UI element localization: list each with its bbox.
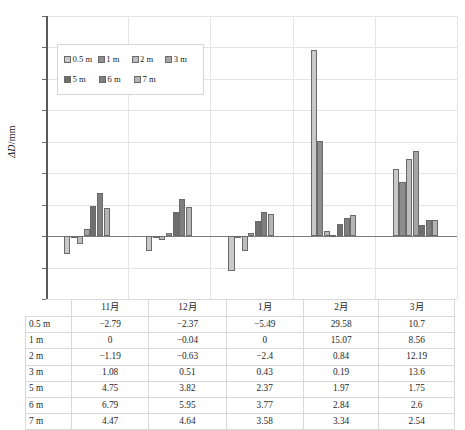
table-cell: 2.6 — [379, 397, 455, 413]
table-cell: 12.19 — [379, 349, 455, 365]
bar — [268, 214, 274, 237]
table-row: 5 m4.753.822.371.971.75 — [26, 381, 455, 397]
y-gridline — [46, 142, 457, 143]
legend-swatch-icon — [165, 56, 172, 63]
bar — [104, 208, 110, 236]
table-row: 3 m1.080.510.430.1913.6 — [26, 365, 455, 381]
bar — [413, 151, 419, 237]
table-cell: 1.08 — [72, 365, 149, 381]
y-gridline — [46, 110, 457, 111]
bar — [64, 236, 70, 254]
legend-label: 2 m — [140, 54, 153, 64]
table-row: 2 m−1.19−0.63−2.40.8412.19 — [26, 349, 455, 365]
bar — [84, 229, 90, 236]
y-gridline — [46, 16, 457, 17]
bar — [248, 233, 254, 236]
table-cell: 0 — [226, 333, 303, 349]
table-cell: 6.79 — [72, 397, 149, 413]
bar — [432, 220, 438, 236]
data-table: 11月12月1月2月3月 0.5 m−2.79−2.37−5.4929.5810… — [25, 299, 455, 430]
bar — [90, 206, 96, 236]
bar — [228, 236, 234, 271]
table-cell: 3.34 — [303, 414, 379, 430]
table-cell: 4.64 — [149, 414, 226, 430]
legend-item-0-5-m[interactable]: 0.5 m — [64, 54, 98, 64]
x-gridline — [375, 16, 376, 299]
table-cell: −2.4 — [226, 349, 303, 365]
bar — [419, 225, 425, 236]
table-cell: 0.51 — [149, 365, 226, 381]
table-cell: 3.77 — [226, 397, 303, 413]
table-row-header: 5 m — [26, 381, 72, 397]
table-row-header: 3 m — [26, 365, 72, 381]
legend-swatch-icon — [132, 56, 139, 63]
table-cell: −5.49 — [226, 317, 303, 333]
bar — [393, 169, 399, 236]
bar — [261, 212, 267, 236]
bar — [317, 141, 323, 236]
table-row-header: 1 m — [26, 333, 72, 349]
table-body: 0.5 m−2.79−2.37−5.4929.5810.71 m0−0.0401… — [26, 317, 455, 430]
bar — [311, 50, 317, 236]
legend-label: 7 m — [143, 74, 156, 84]
table-row-header: 6 m — [26, 397, 72, 413]
table-cell: 4.47 — [72, 414, 149, 430]
legend-label: 5 m — [73, 74, 86, 84]
table-cell: 1.97 — [303, 381, 379, 397]
table-cell: 29.58 — [303, 317, 379, 333]
legend-item-6-m[interactable]: 6 m — [99, 74, 134, 84]
table-cell: 8.56 — [379, 333, 455, 349]
bar — [186, 207, 192, 236]
table-column-header: 1月 — [226, 300, 303, 317]
legend-swatch-icon — [98, 56, 105, 63]
bar — [173, 212, 179, 236]
bar — [344, 218, 350, 236]
table-cell: 13.6 — [379, 365, 455, 381]
bar — [77, 236, 83, 243]
x-gridline — [210, 16, 211, 299]
table-row-header: 7 m — [26, 414, 72, 430]
bar — [350, 215, 356, 236]
bar — [242, 236, 248, 251]
table-cell: 1.75 — [379, 381, 455, 397]
bar — [255, 221, 261, 236]
legend-label: 0.5 m — [73, 54, 93, 64]
table-cell: 2.37 — [226, 381, 303, 397]
bar — [426, 220, 432, 236]
table-cell: 10.7 — [379, 317, 455, 333]
bar — [179, 199, 185, 236]
table-row-header: 0.5 m — [26, 317, 72, 333]
table-cell: 0.43 — [226, 365, 303, 381]
legend-row: 5 m6 m7 m — [64, 69, 199, 89]
bar — [146, 236, 152, 251]
legend-swatch-icon — [64, 56, 71, 63]
table-cell: 5.95 — [149, 397, 226, 413]
table-row: 1 m0−0.04015.078.56 — [26, 333, 455, 349]
bar — [159, 236, 165, 240]
legend-item-1-m[interactable]: 1 m — [98, 54, 132, 64]
legend-item-3-m[interactable]: 3 m — [165, 54, 199, 64]
legend-label: 1 m — [106, 54, 119, 64]
table-cell: 4.75 — [72, 381, 149, 397]
table-header: 11月12月1月2月3月 — [26, 300, 455, 317]
table-column-header: 2月 — [303, 300, 379, 317]
legend-item-2-m[interactable]: 2 m — [132, 54, 166, 64]
table-cell: 0 — [72, 333, 149, 349]
x-gridline — [293, 16, 294, 299]
table-row-header: 2 m — [26, 349, 72, 365]
bar — [153, 236, 159, 238]
y-axis-title-unit: /mm — [6, 125, 17, 144]
table-column-header: 11月 — [72, 300, 149, 317]
table-cell: 0.19 — [303, 365, 379, 381]
legend-item-5-m[interactable]: 5 m — [64, 74, 99, 84]
table-cell: −2.37 — [149, 317, 226, 333]
bar — [71, 236, 77, 238]
table-row: 7 m4.474.643.583.342.54 — [26, 414, 455, 430]
chart-legend: 0.5 m1 m2 m3 m5 m6 m7 m — [57, 44, 204, 95]
y-axis-title: ΔD/mm — [6, 107, 17, 177]
table-cell: 0.84 — [303, 349, 379, 365]
table-cell: 3.58 — [226, 414, 303, 430]
y-axis-line — [46, 16, 48, 299]
legend-item-7-m[interactable]: 7 m — [134, 74, 169, 84]
